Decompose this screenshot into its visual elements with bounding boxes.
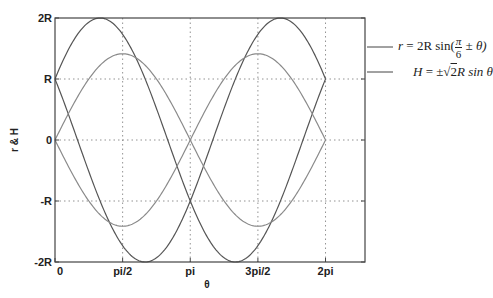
legend-lines bbox=[367, 47, 393, 72]
x-axis-ticks: 0pi/2pi3pi/22pi bbox=[55, 258, 333, 277]
x-axis-label: θ bbox=[204, 279, 209, 290]
y-tick-label: R bbox=[44, 73, 52, 85]
x-tick-label: pi bbox=[185, 265, 195, 277]
legend-h-eq: = ± bbox=[422, 64, 443, 79]
legend-h-symbol: H bbox=[413, 64, 422, 79]
y-tick-label: 0 bbox=[46, 134, 52, 146]
y-tick-label: -2R bbox=[34, 256, 52, 268]
y-tick-label: -R bbox=[40, 195, 52, 207]
grid-lines bbox=[55, 18, 365, 262]
y-axis-label: r & H bbox=[9, 128, 20, 152]
x-tick-label: 2pi bbox=[318, 265, 334, 277]
legend-h-tail: R sin θ bbox=[457, 64, 493, 79]
legend-r-tail: ± θ) bbox=[462, 38, 486, 53]
x-tick-label: 3pi/2 bbox=[245, 265, 270, 277]
legend-r-eq: = 2R sin( bbox=[403, 38, 455, 53]
x-tick-label: 0 bbox=[57, 265, 63, 277]
x-tick-label: pi/2 bbox=[113, 265, 132, 277]
legend-entry-h: H = ±√2R sin θ bbox=[413, 64, 493, 80]
legend-entry-r: r = 2R sin(π6 ± θ) bbox=[398, 35, 487, 60]
y-tick-label: 2R bbox=[38, 12, 52, 24]
